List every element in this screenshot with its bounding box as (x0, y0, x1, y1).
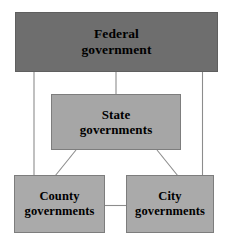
node-federal-government[interactable]: Federalgovernment (15, 12, 218, 72)
node-city-governments-label-line2: governments (135, 204, 205, 218)
government-hierarchy-diagram: Federalgovernment Stategovernments Count… (0, 0, 231, 249)
node-federal-government-label-line1: Federal (94, 26, 139, 41)
node-federal-government-label: Federalgovernment (80, 26, 154, 58)
node-city-governments[interactable]: Citygovernments (126, 175, 214, 233)
node-city-governments-label-line1: City (158, 189, 181, 203)
node-county-governments-label-line2: governments (25, 204, 95, 218)
node-county-governments-label-line1: County (39, 189, 79, 203)
node-city-governments-label: Citygovernments (133, 189, 207, 219)
node-federal-government-label-line2: government (82, 42, 152, 57)
edge-state-county (55, 150, 76, 176)
edge-state-city (157, 150, 178, 176)
node-county-governments[interactable]: Countygovernments (14, 175, 105, 233)
node-state-governments[interactable]: Stategovernments (51, 94, 181, 150)
node-state-governments-label-line1: State (102, 107, 131, 122)
node-state-governments-label-line2: governments (80, 122, 153, 137)
node-county-governments-label: Countygovernments (23, 189, 97, 219)
node-state-governments-label: Stategovernments (78, 107, 155, 138)
